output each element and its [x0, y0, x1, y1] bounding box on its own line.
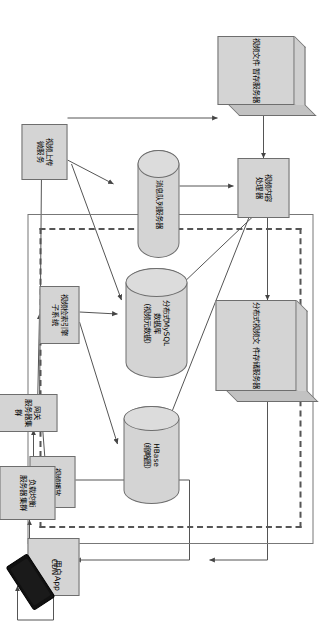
node-label-user-app: 用户App [52, 560, 63, 591]
diagram-cdn-layer: CDN 用户App [0, 0, 329, 628]
